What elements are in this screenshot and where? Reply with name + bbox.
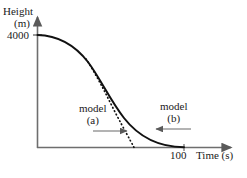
y-tick-label-4000: 4000: [7, 30, 29, 42]
y-axis-label-unit: (m): [14, 18, 30, 30]
annotation-model-b-line1: model: [160, 100, 188, 112]
annotation-model-b: model (b): [160, 101, 188, 124]
x-tick-label-100: 100: [170, 150, 187, 162]
height-vs-time-figure: Height (m) 4000 100 Time (s) model (a) m…: [0, 0, 247, 178]
annotation-model-a: model (a): [79, 103, 107, 126]
x-axis-label: Time (s): [196, 150, 233, 162]
annotation-model-a-line2: (a): [79, 115, 107, 127]
y-axis-label-name: Height: [3, 6, 33, 18]
annotation-model-b-line2: (b): [160, 113, 188, 125]
annotation-model-a-line1: model: [79, 102, 107, 114]
